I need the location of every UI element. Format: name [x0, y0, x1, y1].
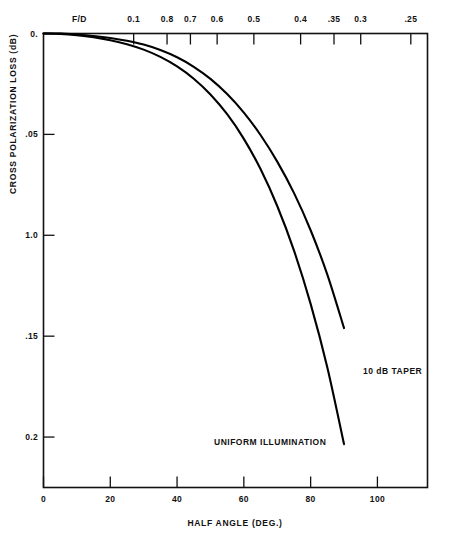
fd-tick-label: 0.6 [211, 14, 224, 24]
fd-tick-label: 0.1 [127, 14, 140, 24]
curve-annotation: UNIFORM ILLUMINATION [214, 437, 326, 447]
y-tick-label: 0.2 [10, 432, 38, 442]
fd-tick-label: 0.3 [354, 14, 367, 24]
x-tick-label: 80 [306, 494, 316, 504]
fd-axis-label: F/D [72, 14, 87, 24]
curve-annotation: 10 dB TAPER [363, 366, 422, 376]
fd-tick-label: .25 [404, 14, 417, 24]
x-tick-label: 40 [172, 494, 182, 504]
y-tick-label: 1.0 [10, 230, 38, 240]
x-tick-label: 100 [370, 494, 385, 504]
y-tick-label: .15 [10, 331, 38, 341]
x-axis-title: HALF ANGLE (DEG.) [187, 518, 282, 528]
fd-tick-label: 0.4 [294, 14, 307, 24]
x-tick-label: 0 [41, 494, 46, 504]
fd-tick-label: .35 [328, 14, 341, 24]
chart-figure: F/D 0.10.80.70.60.50.4.350.3.25 0..051.0… [0, 0, 466, 544]
x-tick-label: 60 [239, 494, 249, 504]
chart-canvas [0, 0, 466, 544]
fd-tick-label: 0.5 [248, 14, 261, 24]
x-tick-label: 20 [105, 494, 115, 504]
chart-background [0, 0, 466, 544]
y-axis-title: CROSS POLARIZATION LOSS (dB) [8, 34, 18, 194]
fd-tick-label: 0.8 [161, 14, 174, 24]
fd-tick-label: 0.7 [184, 14, 197, 24]
